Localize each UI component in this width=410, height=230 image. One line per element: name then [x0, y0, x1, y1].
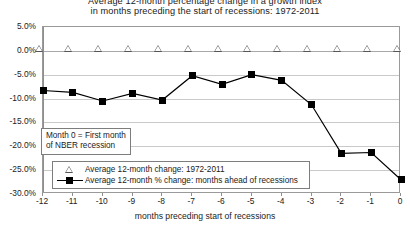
y-tick-label: -15.0%	[0, 117, 36, 125]
y-tick-label: 0.0%	[0, 46, 36, 54]
data-point-square	[159, 97, 166, 104]
x-tick-label: -10	[90, 196, 114, 206]
data-point-square	[189, 72, 196, 79]
x-tick-label: -12	[30, 196, 54, 206]
filled-square-line-icon	[57, 175, 83, 186]
annotation-line2: of NBER recession	[46, 141, 126, 151]
y-tick-label: -5.0%	[0, 70, 36, 78]
legend-item-months-ahead: Average 12-month % change: months ahead …	[57, 175, 305, 186]
y-tick-label: -25.0%	[0, 165, 36, 173]
x-tick-label: -1	[358, 196, 382, 206]
data-point-square	[69, 89, 76, 96]
x-tick-label: -3	[299, 196, 323, 206]
x-tick-label: -9	[120, 196, 144, 206]
x-tick-label: 0	[388, 196, 410, 206]
x-tick-label: -4	[269, 196, 293, 206]
annotation-box: Month 0 = First month of NBER recession	[41, 128, 131, 155]
data-point-square	[278, 77, 285, 84]
x-tick-label: -2	[328, 196, 352, 206]
x-tick-label: -7	[179, 196, 203, 206]
data-point-square	[398, 176, 405, 183]
data-point-square	[248, 71, 255, 78]
legend-label-months-ahead: Average 12-month % change: months ahead …	[83, 175, 298, 186]
x-tick-label: -5	[239, 196, 263, 206]
data-point-square	[99, 98, 106, 105]
chart-root: Average 12-month percentage change in a …	[0, 0, 410, 230]
x-tick-label: -11	[60, 196, 84, 206]
annotation-line1: Month 0 = First month	[46, 131, 126, 141]
legend-label-average-change: Average 12-month change: 1972-2011	[83, 164, 224, 175]
data-point-square	[338, 150, 345, 157]
x-tick-label: -8	[149, 196, 173, 206]
chart-legend: Average 12-month change: 1972-2011 Avera…	[52, 161, 310, 189]
y-tick-label: -20.0%	[0, 141, 36, 149]
y-tick-label: -10.0%	[0, 94, 36, 102]
legend-item-average-change: Average 12-month change: 1972-2011	[57, 164, 305, 175]
data-point-square	[219, 81, 226, 88]
x-axis-title: months preceding start of recessions	[0, 211, 410, 221]
x-tick-label: -6	[209, 196, 233, 206]
open-triangle-icon	[57, 164, 83, 175]
data-point-square	[40, 87, 47, 94]
data-point-square	[368, 149, 375, 156]
y-tick-label: 5.0%	[0, 22, 36, 30]
data-point-square	[129, 90, 136, 97]
chart-title-line2: in months preceding the start of recessi…	[0, 6, 410, 17]
data-point-square	[308, 101, 315, 108]
